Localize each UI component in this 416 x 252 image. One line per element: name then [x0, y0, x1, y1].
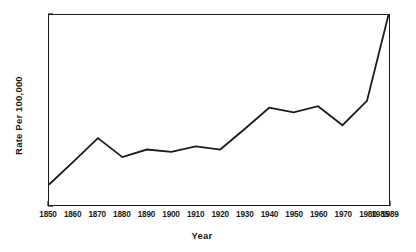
chart-figure: Rate Per 100,000 050100150200250 Year 18… [0, 0, 416, 252]
x-tick-label-1970: 1970 [335, 210, 352, 219]
x-tick-label-1880: 1880 [113, 210, 130, 219]
x-tick-label-1900: 1900 [162, 210, 179, 219]
x-tick-label-1940: 1940 [261, 210, 278, 219]
x-tick-label-1950: 1950 [285, 210, 302, 219]
x-tick-label-1860: 1860 [64, 210, 81, 219]
x-tick-label-1989: 1989 [381, 210, 398, 219]
x-axis-title-text: Year [192, 230, 213, 241]
x-tick-label-1870: 1870 [88, 210, 105, 219]
x-axis-title: Year [0, 230, 416, 241]
x-tick-label-1910: 1910 [187, 210, 204, 219]
x-tick-label-1960: 1960 [310, 210, 327, 219]
x-tick-label-1850: 1850 [39, 210, 56, 219]
x-tick-label-1890: 1890 [138, 210, 155, 219]
x-tick-label-1930: 1930 [236, 210, 253, 219]
data-series-line [49, 15, 389, 205]
plot-area [48, 14, 390, 206]
x-tick-label-1920: 1920 [212, 210, 229, 219]
